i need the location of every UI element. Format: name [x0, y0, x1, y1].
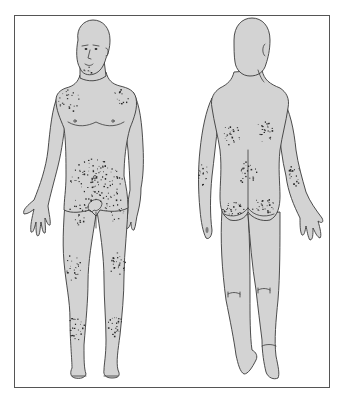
- lesion-dot-lower-back-sacral: [247, 170, 248, 171]
- lesion-dot-right-shin: [75, 324, 76, 325]
- lesion-dot-left-buttock: [222, 209, 224, 210]
- lesion-dot-inner-thigh-left: [118, 218, 120, 219]
- lesion-dot-right-shoulder: [69, 107, 71, 109]
- lesion-dot-upper-back-right: [270, 131, 271, 132]
- lesion-dot-lower-abdomen-groin: [82, 172, 83, 173]
- lesion-dot-right-shin: [75, 319, 76, 320]
- lesion-dot-left-buttock: [238, 204, 239, 205]
- lesion-dot-right-shin: [69, 320, 70, 321]
- lesion-dot-inner-thigh-right: [77, 223, 78, 224]
- lesion-dot-left-shoulder: [126, 102, 127, 104]
- lesion-dot-right-knee: [69, 268, 70, 269]
- lesion-dot-inner-thigh-right: [75, 200, 76, 201]
- lesion-dot-left-elbow: [198, 175, 199, 176]
- lesion-dot-left-buttock: [235, 202, 237, 203]
- lesion-dot-right-knee: [80, 270, 81, 271]
- lesion-dot-right-shoulder: [76, 105, 77, 106]
- lesion-dot-lower-abdomen-groin: [92, 187, 93, 188]
- lesion-dot-upper-back-right: [267, 127, 268, 128]
- lesion-dot-right-shin: [78, 330, 79, 331]
- lesion-dot-lower-abdomen-groin: [84, 161, 85, 162]
- lesion-dot-right-knee: [69, 256, 70, 257]
- lesion-dot-left-shin: [118, 318, 119, 319]
- lesion-dot-right-shoulder: [66, 91, 67, 92]
- lesion-dot-right-knee: [76, 268, 77, 269]
- posterior-figure: [199, 18, 323, 379]
- lesion-dot-left-knee: [113, 258, 114, 259]
- lesion-dot-left-shin: [110, 319, 111, 321]
- lesion-dot-right-buttock: [252, 209, 253, 210]
- lesion-dot-lower-abdomen-groin: [99, 166, 100, 167]
- lesion-dot-lower-abdomen-groin: [93, 191, 94, 192]
- lesion-dot-inner-thigh-right: [85, 207, 86, 208]
- lesion-dot-left-knee: [116, 261, 117, 262]
- lesion-dot-left-shoulder: [117, 99, 118, 100]
- lesion-dot-right-buttock: [262, 205, 264, 206]
- lesion-dot-lower-abdomen-groin: [75, 180, 76, 181]
- lesion-dot-left-knee: [114, 267, 115, 268]
- lesion-dot-left-shoulder: [115, 93, 116, 94]
- lesion-dot-right-buttock: [269, 199, 270, 201]
- lesion-dot-lower-abdomen-groin: [96, 177, 98, 179]
- lesion-dot-lower-back-sacral: [242, 182, 243, 184]
- lesion-dot-right-knee: [75, 278, 77, 279]
- lesion-dot-left-knee: [119, 274, 120, 275]
- lesion-dot-left-elbow: [201, 165, 202, 166]
- lesion-dot-right-shoulder: [68, 94, 69, 95]
- lesion-dot-right-buttock: [257, 202, 258, 203]
- lesion-dot-inner-thigh-left: [119, 209, 120, 210]
- lesion-dot-lower-back-sacral: [248, 166, 249, 168]
- lesion-dot-inner-thigh-left: [113, 221, 114, 222]
- lesion-dot-left-knee: [123, 261, 124, 262]
- lesion-dot-chin-beard: [85, 70, 86, 71]
- lesion-dot-inner-thigh-left: [112, 215, 113, 216]
- lesion-dot-lower-back-sacral: [241, 169, 242, 170]
- lesion-dot-chin-beard: [91, 72, 93, 74]
- lesion-dot-lower-abdomen-groin: [94, 180, 96, 181]
- lesion-dot-lower-abdomen-groin: [89, 163, 90, 164]
- lesion-dot-upper-back-left: [232, 137, 234, 139]
- lesion-dot-lower-abdomen-groin: [90, 182, 92, 183]
- lesion-dot-lower-abdomen-groin: [114, 176, 115, 177]
- lesion-dot-lower-abdomen-groin: [93, 170, 94, 171]
- lesion-dot-right-knee: [77, 264, 78, 265]
- lesion-dot-upper-back-right: [267, 126, 268, 127]
- lesion-dot-inner-thigh-right: [75, 219, 76, 220]
- lesion-dot-right-knee: [80, 262, 82, 263]
- lesion-dot-left-elbow: [206, 178, 207, 179]
- lesion-dot-lower-back-sacral: [240, 180, 241, 182]
- lesion-dot-upper-back-right: [270, 139, 271, 140]
- lesion-dot-left-knee: [125, 262, 126, 263]
- lesion-dot-left-knee: [117, 253, 118, 254]
- lesion-dot-right-buttock: [262, 209, 263, 210]
- lesion-dot-left-knee: [121, 259, 122, 260]
- lesion-dot-left-shoulder: [119, 100, 120, 101]
- lesion-dot-left-elbow: [202, 184, 204, 185]
- lesion-dot-lower-abdomen-groin: [117, 178, 118, 179]
- lesion-dot-right-knee: [78, 266, 79, 267]
- lesion-dot-lower-abdomen-groin: [100, 195, 101, 196]
- lesion-dot-left-shin: [112, 334, 114, 335]
- lesion-dot-lower-abdomen-groin: [99, 194, 100, 195]
- lesion-dot-lower-back-sacral: [245, 161, 246, 163]
- lesion-dot-inner-thigh-right: [82, 210, 83, 211]
- lesion-dot-left-elbow: [200, 173, 201, 174]
- lesion-dot-right-elbow: [292, 170, 294, 172]
- lesion-dot-right-knee: [78, 264, 79, 265]
- lesion-dot-inner-thigh-right: [83, 221, 85, 223]
- lesion-dot-right-elbow: [295, 185, 296, 186]
- lesion-dot-chin-beard: [89, 67, 90, 68]
- lesion-dot-left-shin: [116, 331, 117, 332]
- lesion-dot-right-shin: [77, 319, 78, 320]
- lesion-dot-right-elbow: [298, 168, 299, 169]
- lesion-dot-right-elbow: [294, 169, 295, 170]
- lesion-dot-left-buttock: [227, 208, 228, 209]
- lesion-dot-lower-back-sacral: [243, 168, 244, 169]
- lesion-dot-left-buttock: [224, 212, 225, 213]
- lesion-dot-lower-abdomen-groin: [98, 172, 99, 173]
- lesion-dot-right-shoulder: [70, 104, 71, 105]
- lesion-dot-left-knee: [111, 260, 112, 262]
- lesion-dot-lower-abdomen-groin: [88, 198, 90, 199]
- lesion-dot-right-shoulder: [78, 95, 79, 96]
- lesion-dot-lower-abdomen-groin: [120, 183, 121, 184]
